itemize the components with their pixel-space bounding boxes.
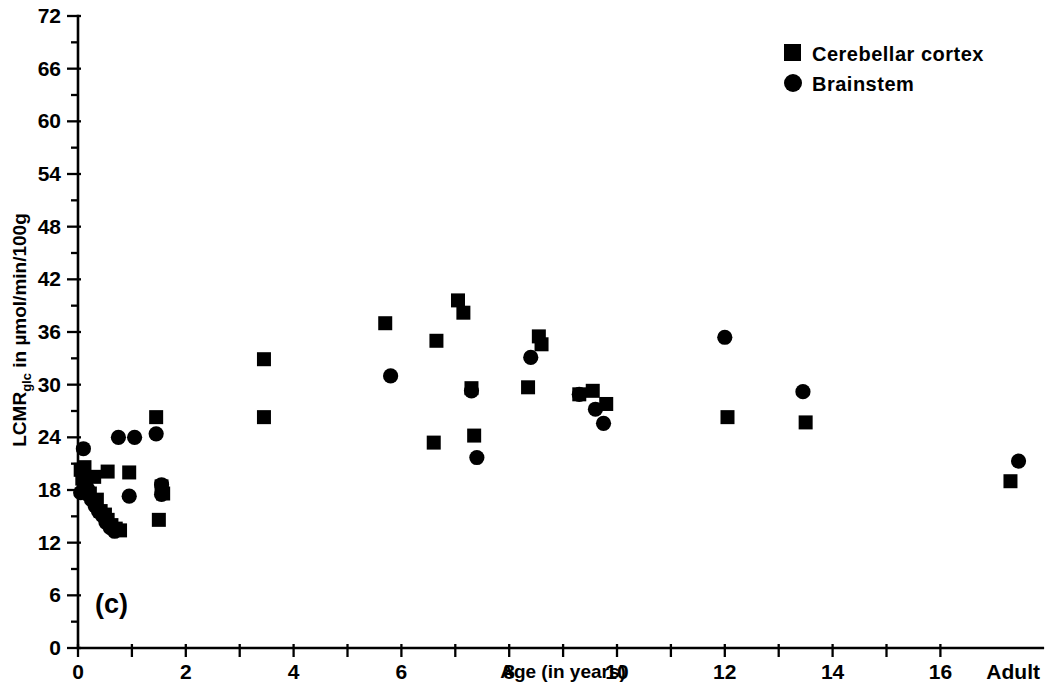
- data-point-brainstem: [122, 489, 137, 504]
- y-axis-title-units: in µmol/min/100g: [9, 213, 30, 373]
- x-tick-label: 0: [72, 660, 84, 683]
- data-point-cerebellar-cortex: [122, 465, 136, 479]
- data-point-cerebellar-cortex: [521, 380, 535, 394]
- data-point-brainstem: [717, 330, 732, 345]
- data-point-brainstem: [111, 430, 126, 445]
- y-tick-label: 0: [49, 636, 61, 659]
- series-brainstem-points: [73, 330, 1026, 539]
- x-axis-title: Age (in years): [500, 661, 626, 682]
- data-point-cerebellar-cortex: [1003, 474, 1017, 488]
- x-tick-label: 2: [180, 660, 192, 683]
- data-point-brainstem: [107, 524, 122, 539]
- data-point-cerebellar-cortex: [149, 410, 163, 424]
- data-point-brainstem: [127, 430, 142, 445]
- data-point-cerebellar-cortex: [535, 337, 549, 351]
- data-point-brainstem: [154, 487, 169, 502]
- data-point-brainstem: [149, 426, 164, 441]
- y-axis-title: LCMRglc in µmol/min/100g: [9, 213, 34, 447]
- x-tick-label: 6: [396, 660, 408, 683]
- data-point-cerebellar-cortex: [152, 513, 166, 527]
- legend-circle-marker-icon: [784, 74, 802, 92]
- x-tick-label-adult: Adult: [986, 660, 1040, 683]
- y-axis-title-main: LCMR: [9, 392, 30, 447]
- legend-square-marker-icon: [784, 44, 801, 61]
- y-tick-label: 18: [38, 478, 62, 501]
- y-tick-label: 12: [38, 531, 61, 554]
- data-point-brainstem: [588, 402, 603, 417]
- panel-label: (c): [95, 589, 128, 619]
- x-tick-label: 12: [713, 660, 736, 683]
- y-tick-label: 66: [38, 57, 61, 80]
- data-point-cerebellar-cortex: [101, 465, 115, 479]
- axis-lines: [78, 16, 1043, 648]
- data-point-cerebellar-cortex: [720, 410, 734, 424]
- data-point-brainstem: [1011, 453, 1026, 468]
- data-point-brainstem: [464, 383, 479, 398]
- series-cerebellar-cortex-points: [74, 293, 1018, 537]
- y-tick-label: 30: [38, 373, 61, 396]
- x-tick-label: 16: [929, 660, 952, 683]
- x-axis-ticks: [78, 644, 940, 657]
- x-tick-label: 4: [288, 660, 300, 683]
- legend-item-label-brainstem: Brainstem: [812, 73, 914, 95]
- x-tick-label: 14: [821, 660, 845, 683]
- y-axis-tick-labels: 061218243036424854606672: [38, 4, 62, 659]
- y-tick-label: 24: [38, 425, 62, 448]
- data-point-brainstem: [795, 384, 810, 399]
- data-point-cerebellar-cortex: [451, 293, 465, 307]
- y-tick-label: 54: [38, 162, 62, 185]
- legend: Cerebellar cortex Brainstem: [784, 43, 984, 95]
- y-axis-title-subscript: glc: [19, 373, 34, 392]
- data-point-brainstem: [572, 387, 587, 402]
- y-tick-label: 36: [38, 320, 61, 343]
- axes-group: [78, 16, 1043, 648]
- figure-panel-c: 061218243036424854606672 0246810121416Ad…: [0, 0, 1047, 685]
- data-point-brainstem: [596, 416, 611, 431]
- data-point-cerebellar-cortex: [257, 352, 271, 366]
- data-point-cerebellar-cortex: [586, 384, 600, 398]
- data-point-cerebellar-cortex: [257, 410, 271, 424]
- y-tick-label: 60: [38, 109, 61, 132]
- data-point-brainstem: [383, 368, 398, 383]
- data-point-cerebellar-cortex: [467, 429, 481, 443]
- data-point-brainstem: [469, 450, 484, 465]
- y-tick-label: 42: [38, 267, 61, 290]
- data-point-brainstem: [76, 441, 91, 456]
- data-point-cerebellar-cortex: [799, 415, 813, 429]
- legend-item-label-cerebellar-cortex: Cerebellar cortex: [812, 43, 984, 65]
- y-tick-label: 48: [38, 215, 62, 238]
- data-point-cerebellar-cortex: [378, 316, 392, 330]
- y-tick-label: 72: [38, 4, 61, 27]
- data-point-cerebellar-cortex: [427, 436, 441, 450]
- data-point-cerebellar-cortex: [429, 334, 443, 348]
- y-tick-label: 6: [49, 583, 61, 606]
- scatter-plot-svg: 061218243036424854606672 0246810121416Ad…: [0, 0, 1047, 685]
- data-point-brainstem: [523, 350, 538, 365]
- svg-text:LCMRglc in µmol/min/100g: LCMRglc in µmol/min/100g: [9, 213, 34, 447]
- data-point-cerebellar-cortex: [456, 306, 470, 320]
